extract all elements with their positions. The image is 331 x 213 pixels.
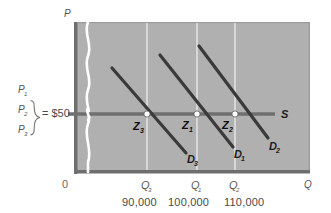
tick-label-q1-subscript: 1 (198, 187, 201, 193)
chart-canvas: P 0 Q P 1 P 2 P 3 = $50 Z 3 Z 1 Z 2 D 3 … (0, 0, 331, 213)
y-axis-line (74, 22, 78, 174)
curve-label-d2-subscript: 2 (275, 147, 280, 154)
equilibrium-marker-z1 (194, 111, 200, 117)
origin-label: 0 (62, 178, 68, 190)
x-axis-label: Q (304, 179, 312, 190)
tick-label-q2-subscript: 2 (235, 187, 240, 193)
point-label-z2-subscript: 2 (228, 126, 233, 133)
price-value-label: = $50 (42, 107, 70, 119)
curve-label-d3-subscript: 3 (194, 160, 198, 167)
plot-right-edge (309, 22, 310, 170)
point-label-z3-subscript: 3 (140, 127, 144, 134)
price-label-p1-subscript: 1 (24, 91, 27, 97)
equilibrium-marker-z3 (144, 111, 150, 117)
y-axis-label: P (64, 8, 71, 19)
price-label-p2-subscript: 2 (23, 111, 28, 117)
x-axis-line (74, 170, 310, 174)
curve-label-s: S (281, 108, 289, 120)
point-label-z1-subscript: 1 (189, 126, 193, 133)
supply-demand-figure: P 0 Q P 1 P 2 P 3 = $50 Z 3 Z 1 Z 2 D 3 … (0, 0, 331, 213)
plot-top-edge (77, 22, 310, 23)
curve-label-d1-subscript: 1 (241, 155, 245, 162)
equilibrium-marker-z2 (232, 111, 238, 117)
quantity-value-q1: 100,000 (168, 196, 209, 208)
quantity-value-q3: 90,000 (122, 196, 157, 208)
quantity-value-q2: 110,000 (224, 196, 264, 208)
